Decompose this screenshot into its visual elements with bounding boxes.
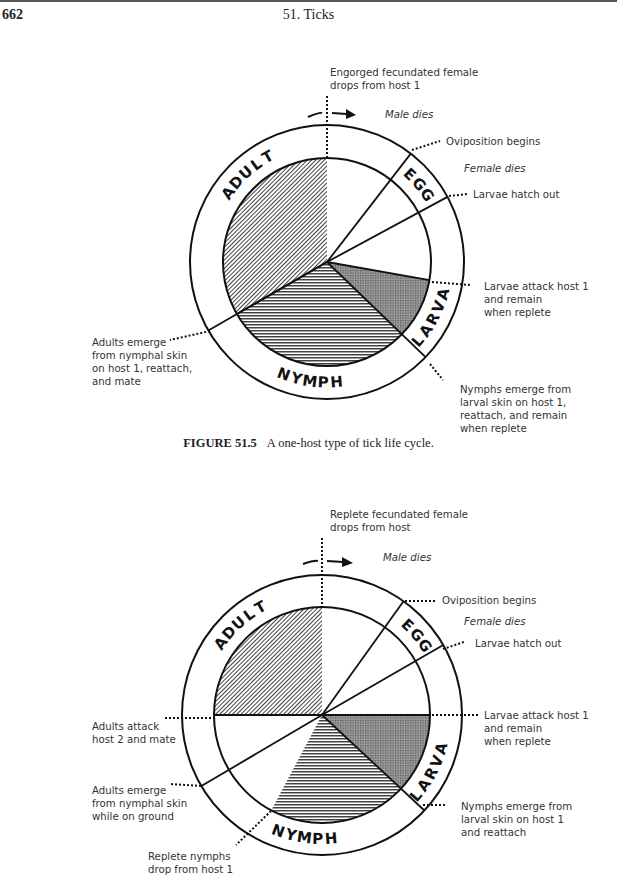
label-larvae-hatch: Larvae hatch out bbox=[475, 637, 562, 650]
label-larvae-attack: Larvae attack host 1 and remain when rep… bbox=[484, 280, 589, 319]
leader-larvae-attack bbox=[432, 282, 470, 285]
leader-larvae-hatch bbox=[443, 642, 464, 649]
cycle-arrow-tail bbox=[303, 561, 318, 564]
label-adults-emerge: Adults emerge from nymphal skin while on… bbox=[92, 784, 187, 823]
label-oviposition: Oviposition begins bbox=[442, 594, 536, 607]
cycle-arrow-head bbox=[346, 109, 356, 119]
label-nymphs-emerge: Nymphs emerge from larval skin on host 1… bbox=[461, 800, 572, 839]
stage-label-nymph-char: P bbox=[312, 830, 325, 848]
cycle-arrow-head bbox=[342, 557, 353, 567]
cycle-arrow-shaft bbox=[332, 113, 347, 114]
figure-number: FIGURE 51.5 bbox=[183, 436, 257, 450]
label-male-dies: Male dies bbox=[385, 108, 433, 121]
cycle-arrow-tail bbox=[308, 113, 322, 117]
label-larvae-hatch: Larvae hatch out bbox=[473, 188, 560, 201]
label-nymphs-drop: Replete nymphs drop from host 1 bbox=[148, 850, 233, 876]
label-female-dies: Female dies bbox=[464, 615, 526, 628]
stage-label-nymph-char: H bbox=[324, 829, 339, 848]
label-female-drops: Replete fecundated female drops from hos… bbox=[330, 508, 468, 534]
figure-caption: FIGURE 51.5A one-host type of tick life … bbox=[0, 436, 617, 451]
leader-larvae-hatch bbox=[449, 194, 468, 196]
stage-label-nymph-char: H bbox=[330, 373, 345, 392]
label-oviposition: Oviposition begins bbox=[446, 135, 540, 148]
cycle-arrow-shaft bbox=[327, 561, 343, 562]
life-cycle-wheel: ADULTEGGLARVANYMPH bbox=[190, 125, 464, 399]
label-male-dies: Male dies bbox=[383, 551, 431, 564]
label-adults-emerge: Adults emerge from nymphal skin on host … bbox=[92, 336, 192, 388]
caption-text: A one-host type of tick life cycle. bbox=[267, 436, 434, 450]
label-nymphs-emerge: Nymphs emerge from larval skin on host 1… bbox=[460, 383, 571, 435]
leader-nymphs-drop bbox=[236, 811, 271, 845]
stage-label-nymph-char: P bbox=[317, 373, 329, 391]
leader-oviposition bbox=[412, 141, 440, 150]
label-larvae-attack: Larvae attack host 1 and remain when rep… bbox=[484, 709, 589, 748]
label-adults-attack: Adults attack host 2 and mate bbox=[92, 720, 176, 746]
label-female-drops: Engorged fecundated female drops from ho… bbox=[330, 66, 478, 92]
life-cycle-wheel: ADULTEGGLARVANYMPH bbox=[182, 575, 462, 855]
label-female-dies: Female dies bbox=[464, 162, 526, 175]
leader-nymphs-emerge bbox=[430, 364, 443, 380]
